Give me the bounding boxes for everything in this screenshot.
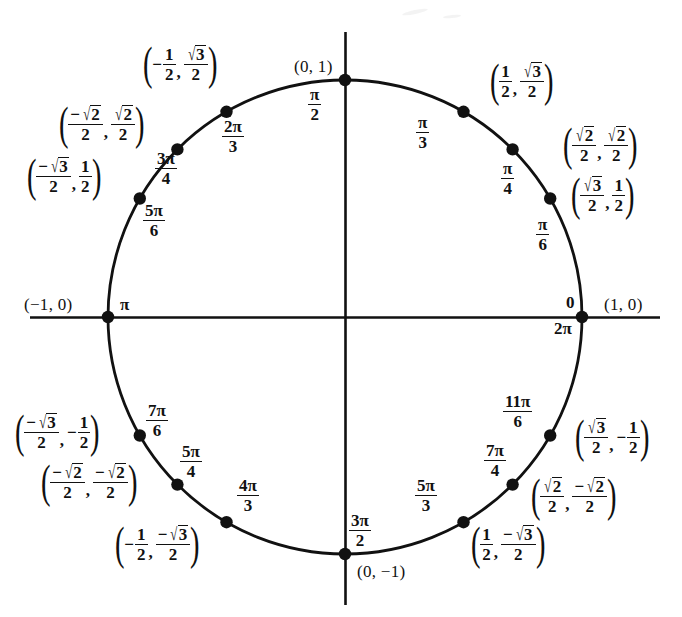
- fraction: 5π 6: [143, 202, 165, 239]
- minus-sign: −: [38, 157, 49, 176]
- fraction: 11π 6: [503, 393, 532, 430]
- coord-pair-2pi-over-3: ( − 12 , √3 2 ): [140, 45, 220, 83]
- paren-left-icon: (: [115, 525, 125, 563]
- fraction: 5π 4: [180, 443, 202, 480]
- angle-label-11pi-over-6: 11π 6: [503, 393, 532, 430]
- point-5pi4: [171, 478, 183, 490]
- paren-left-icon: (: [15, 413, 25, 451]
- point-11pi6: [544, 429, 556, 441]
- paren-left-icon: (: [471, 525, 481, 563]
- fraction-denominator: 3: [222, 137, 244, 155]
- radical-2: √2: [574, 126, 594, 144]
- paren-right-icon: ): [135, 105, 145, 143]
- fraction-numerator: π: [536, 216, 549, 235]
- minus-sign: −: [70, 105, 81, 124]
- fraction: √3 2: [584, 418, 608, 456]
- angle-label-pi: π: [120, 296, 129, 313]
- minus-sign: −: [574, 477, 585, 496]
- fraction-denominator: 4: [180, 462, 202, 480]
- minus-sign: −: [124, 536, 135, 553]
- fraction: π 3: [416, 114, 429, 151]
- paren-right-icon: ): [625, 176, 635, 214]
- point-pi: [102, 311, 114, 323]
- fraction-numerator: π: [416, 114, 429, 133]
- fraction: 12: [79, 158, 92, 195]
- fraction: √2 2: [572, 126, 596, 164]
- fraction: 4π 3: [237, 477, 259, 514]
- paren-left-icon: (: [490, 62, 500, 100]
- point-3pi2: [339, 548, 351, 560]
- fraction: −√2 2: [68, 105, 103, 143]
- radical-3: √3: [186, 45, 206, 63]
- fraction: 7π 4: [484, 442, 506, 479]
- minus-sign: −: [152, 56, 163, 73]
- minus-sign: −: [52, 463, 63, 482]
- radical-2: √2: [542, 477, 562, 495]
- fraction-denominator: 3: [415, 496, 437, 514]
- coord-pair-pi-over-4: ( √2 2 , √2 2 ): [560, 126, 641, 164]
- coord-label-top: (0, 1): [294, 58, 333, 75]
- paren-right-icon: ): [536, 525, 546, 563]
- fraction-numerator: π: [501, 160, 514, 179]
- paren-right-icon: ): [92, 157, 102, 195]
- fraction: √2 2: [540, 477, 564, 515]
- radical-2: √2: [63, 463, 83, 481]
- fraction: 12: [78, 414, 91, 451]
- point-0-2pi: [576, 311, 588, 323]
- fraction: 12: [163, 46, 176, 83]
- fraction: π 6: [536, 216, 549, 253]
- fraction: −√2 2: [572, 477, 607, 515]
- coord-pair-7pi-over-4: ( √2 2 , −√2 2 ): [528, 477, 619, 515]
- fraction: 12: [612, 177, 625, 214]
- fraction: −√3 2: [501, 525, 536, 563]
- fraction-denominator: 3: [416, 133, 429, 151]
- paren-left-icon: (: [575, 418, 585, 456]
- fraction-denominator: 6: [143, 221, 165, 239]
- fraction-denominator: 4: [155, 169, 177, 187]
- coord-pair-pi-over-3: ( 12 , √3 2 ): [487, 62, 556, 100]
- radical-3: √3: [168, 525, 188, 543]
- fraction: −√2 2: [93, 463, 128, 501]
- coord-pair-7pi-over-6: ( −√3 2 , − 12 ): [12, 413, 103, 451]
- radical-2: √2: [113, 105, 133, 123]
- paren-right-icon: ): [640, 418, 650, 456]
- fraction: √3 2: [184, 45, 208, 83]
- angle-label-pi-over-3: π 3: [416, 114, 429, 151]
- point-7pi6: [134, 429, 146, 441]
- paren-right-icon: ): [544, 62, 554, 100]
- radical-3: √3: [49, 157, 69, 175]
- fraction: π 2: [308, 86, 321, 123]
- paren-right-icon: ): [128, 463, 138, 501]
- fraction: 5π 3: [415, 477, 437, 514]
- fraction-denominator: 4: [484, 461, 506, 479]
- fraction-numerator: 3π: [155, 150, 177, 169]
- paren-right-icon: ): [607, 477, 617, 515]
- radical-2: √2: [606, 126, 626, 144]
- unit-circle-canvas: [0, 0, 682, 617]
- fraction: 2π 3: [222, 118, 244, 155]
- fraction-denominator: 3: [237, 496, 259, 514]
- fraction-denominator: 6: [503, 412, 532, 430]
- radical-3: √3: [586, 418, 606, 436]
- fraction: √3 2: [520, 62, 544, 100]
- fraction-numerator: 5π: [143, 202, 165, 221]
- coord-pair-pi-over-6: ( √3 2 , 12 ): [568, 176, 637, 214]
- unit-circle-figure: (0, 1) (1, 0) (−1, 0) (0, −1) 0 2π π π 2…: [0, 0, 682, 617]
- angle-label-7pi-over-4: 7π 4: [484, 442, 506, 479]
- paren-left-icon: (: [563, 126, 573, 164]
- fraction: 3π 2: [349, 512, 371, 549]
- coord-pair-5pi-over-3: ( 12 , −√3 2 ): [468, 525, 548, 563]
- paren-left-icon: (: [571, 176, 581, 214]
- coord-pair-3pi-over-4: ( −√2 2 , √2 2 ): [56, 105, 147, 143]
- radical-3: √3: [37, 413, 57, 431]
- angle-label-5pi-over-4: 5π 4: [180, 443, 202, 480]
- point-pi4: [506, 143, 518, 155]
- fraction-denominator: 4: [501, 179, 514, 197]
- fraction-numerator: 7π: [146, 402, 168, 421]
- fraction: 3π 4: [155, 150, 177, 187]
- fraction-numerator: 3π: [349, 512, 371, 531]
- coord-pair-5pi-over-6: ( −√3 2 , 12 ): [24, 157, 104, 195]
- coord-pair-5pi-over-4: ( −√2 2 , −√2 2 ): [38, 463, 140, 501]
- paren-right-icon: ): [190, 525, 200, 563]
- fraction: √3 2: [580, 176, 604, 214]
